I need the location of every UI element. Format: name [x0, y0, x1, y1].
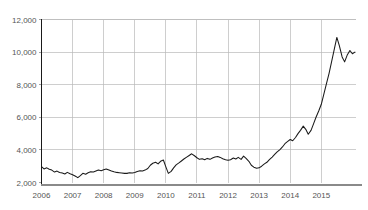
y-tick-label: 6,000: [16, 113, 37, 122]
x-tick-label: 2015: [312, 191, 330, 200]
axes-group: [41, 19, 363, 185]
y-axis-labels: 2,0004,0006,0008,00010,00012,000: [12, 16, 37, 188]
y-tick-label: 4,000: [16, 146, 37, 155]
x-tick-label: 2011: [188, 191, 206, 200]
y-tick-label: 10,000: [12, 48, 37, 57]
y-tick-label: 2,000: [16, 179, 37, 188]
x-tick-label: 2007: [64, 191, 82, 200]
chart-container: 2,0004,0006,0008,00010,00012,000 2006200…: [0, 0, 368, 210]
gridlines-group: [42, 20, 356, 183]
data-series-line: [42, 37, 355, 177]
x-tick-label: 2010: [157, 191, 175, 200]
x-tick-label: 2009: [126, 191, 144, 200]
line-chart: 2,0004,0006,0008,00010,00012,000 2006200…: [0, 0, 368, 210]
y-tick-label: 8,000: [16, 81, 37, 90]
x-tick-label: 2012: [219, 191, 237, 200]
x-tick-label: 2008: [95, 191, 113, 200]
x-axis-labels: 2006200720082009201020112012201320142015: [33, 191, 331, 200]
y-tick-label: 12,000: [12, 16, 37, 25]
x-tick-label: 2014: [281, 191, 299, 200]
x-tick-label: 2013: [250, 191, 268, 200]
x-tick-label: 2006: [33, 191, 51, 200]
